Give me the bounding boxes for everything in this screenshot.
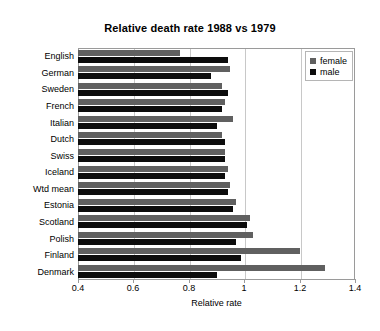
bar-male bbox=[78, 123, 217, 129]
legend-label: female bbox=[320, 56, 347, 66]
bar-male bbox=[78, 106, 222, 112]
x-tick-label: 0.8 bbox=[183, 283, 196, 293]
chart-legend: femalemale bbox=[305, 51, 353, 81]
bar-female bbox=[78, 215, 250, 221]
bar-group bbox=[78, 182, 355, 199]
category-label-sweden: Sweden bbox=[0, 84, 74, 94]
bar-female bbox=[78, 232, 253, 238]
bar-male bbox=[78, 73, 211, 79]
bar-group bbox=[78, 199, 355, 216]
bar-male bbox=[78, 239, 236, 245]
legend-swatch-icon bbox=[310, 69, 316, 75]
bar-female bbox=[78, 265, 325, 271]
bar-group bbox=[78, 215, 355, 232]
bar-female bbox=[78, 50, 180, 56]
bar-group bbox=[78, 83, 355, 100]
category-label-iceland: Iceland bbox=[0, 167, 74, 177]
category-label-wtd-mean: Wtd mean bbox=[0, 184, 74, 194]
bar-group bbox=[78, 265, 355, 282]
bar-group bbox=[78, 149, 355, 166]
bar-male bbox=[78, 139, 225, 145]
x-axis-title: Relative rate bbox=[78, 298, 355, 308]
bar-group bbox=[78, 232, 355, 249]
bar-male bbox=[78, 222, 247, 228]
legend-item-male: male bbox=[310, 66, 347, 77]
legend-swatch-icon bbox=[310, 58, 316, 64]
bar-female bbox=[78, 132, 222, 138]
x-tick-label: 0.4 bbox=[72, 283, 85, 293]
bar-male bbox=[78, 206, 233, 212]
bar-female bbox=[78, 182, 230, 188]
bar-group bbox=[78, 248, 355, 265]
bars-layer bbox=[78, 48, 355, 280]
category-label-finland: Finland bbox=[0, 250, 74, 260]
bar-male bbox=[78, 173, 225, 179]
bar-group bbox=[78, 166, 355, 183]
category-label-italian: Italian bbox=[0, 118, 74, 128]
category-label-estonia: Estonia bbox=[0, 200, 74, 210]
bar-female bbox=[78, 66, 230, 72]
category-label-polish: Polish bbox=[0, 234, 74, 244]
bar-male bbox=[78, 272, 217, 278]
chart-screenshot: Relative death rate 1988 vs 1979 English… bbox=[0, 0, 380, 331]
bar-female bbox=[78, 116, 233, 122]
category-label-german: German bbox=[0, 68, 74, 78]
bar-female bbox=[78, 199, 236, 205]
bar-group bbox=[78, 116, 355, 133]
x-tick-label: 1.2 bbox=[294, 283, 307, 293]
bar-female bbox=[78, 83, 222, 89]
bar-male bbox=[78, 57, 228, 63]
bar-male bbox=[78, 156, 225, 162]
category-label-dutch: Dutch bbox=[0, 134, 74, 144]
legend-item-female: female bbox=[310, 55, 347, 66]
category-label-english: English bbox=[0, 51, 74, 61]
category-label-denmark: Denmark bbox=[0, 267, 74, 277]
bar-male bbox=[78, 255, 241, 261]
legend-label: male bbox=[320, 67, 340, 77]
x-tick-label: 1.4 bbox=[349, 283, 362, 293]
bar-female bbox=[78, 166, 228, 172]
x-tick-label: 0.6 bbox=[127, 283, 140, 293]
bar-female bbox=[78, 248, 300, 254]
bar-female bbox=[78, 99, 225, 105]
category-axis-labels: EnglishGermanSwedenFrenchItalianDutchSwi… bbox=[0, 48, 74, 280]
bar-group bbox=[78, 132, 355, 149]
category-label-french: French bbox=[0, 101, 74, 111]
category-label-swiss: Swiss bbox=[0, 151, 74, 161]
chart-title: Relative death rate 1988 vs 1979 bbox=[0, 22, 380, 34]
bar-group bbox=[78, 99, 355, 116]
category-label-scotland: Scotland bbox=[0, 217, 74, 227]
bar-female bbox=[78, 149, 225, 155]
bar-male bbox=[78, 90, 228, 96]
bar-male bbox=[78, 189, 228, 195]
x-tick-label: 1 bbox=[241, 283, 246, 293]
x-axis-ticks: 0.40.60.811.21.4 bbox=[78, 283, 355, 297]
